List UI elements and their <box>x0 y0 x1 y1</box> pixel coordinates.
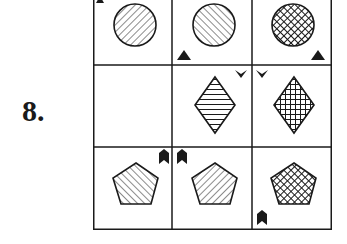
pentagon-diagonal-up-shape <box>113 163 158 204</box>
diamond-grid-shape <box>274 77 314 133</box>
cell-r1-c1 <box>96 0 156 46</box>
chevron-up-marker-icon <box>177 149 187 164</box>
puzzle-number-label: 8. <box>22 94 45 128</box>
cell-r2-c3 <box>256 70 314 133</box>
triangle-marker-icon <box>96 0 104 3</box>
cell-r3-c2 <box>177 149 237 204</box>
triangle-marker-icon <box>311 50 325 60</box>
cell-r3-c3 <box>257 163 316 225</box>
cell-r3-c1 <box>113 149 169 204</box>
chevron-down-marker-icon <box>235 70 247 78</box>
pentagon-crosshatch-shape <box>271 163 316 204</box>
chevron-up-marker-icon <box>159 149 169 164</box>
circle-diagonal-up-shape <box>193 4 235 46</box>
diamond-horizontal-lines-shape <box>195 77 235 133</box>
chevron-down-marker-icon <box>256 70 268 78</box>
triangle-marker-icon <box>177 50 191 60</box>
circle-crosshatch-shape <box>272 4 314 46</box>
cell-r1-c3 <box>272 4 325 60</box>
puzzle-grid <box>93 0 332 230</box>
circle-diagonal-down-shape <box>114 4 156 46</box>
cell-r2-c2 <box>195 70 247 133</box>
cell-r1-c2 <box>177 4 235 60</box>
chevron-up-marker-icon <box>257 210 267 225</box>
pentagon-diagonal-down-shape <box>192 163 237 204</box>
